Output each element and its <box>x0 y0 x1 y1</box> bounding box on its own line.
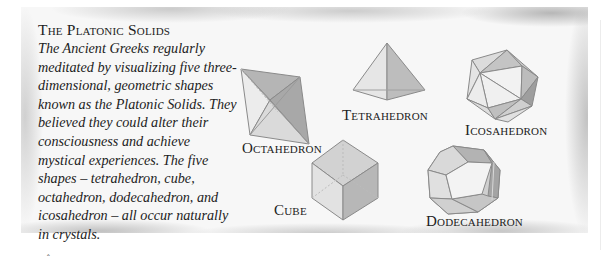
cube-label: Cube <box>274 202 307 219</box>
icosahedron-icon <box>467 50 538 122</box>
icosahedron-label: Icosahedron <box>465 122 547 139</box>
dodecahedron-icon <box>428 146 500 214</box>
octahedron-label: Octahedron <box>242 140 322 157</box>
dodecahedron-label: Dodecahedron <box>426 213 523 230</box>
page-mark-icon: ˆ <box>47 254 50 261</box>
cube-icon <box>312 140 378 220</box>
tetrahedron-label: Tetrahedron <box>342 107 428 124</box>
tetrahedron-icon <box>353 43 425 100</box>
octahedron-icon <box>241 69 309 144</box>
